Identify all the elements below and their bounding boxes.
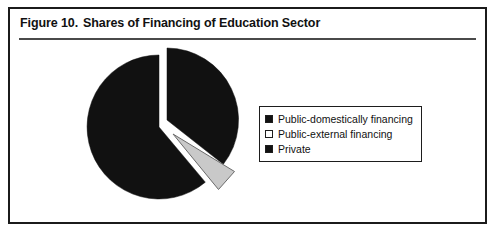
title-divider-rule: [19, 38, 476, 40]
legend-item-public-domestically-financing[interactable]: Public-domestically financing: [265, 112, 415, 126]
open-square-icon: [265, 130, 273, 138]
legend: Public-domestically financing Public-ext…: [259, 106, 422, 162]
page-title: Shares of Financing of Education Sector: [83, 16, 320, 30]
pie-chart-svg: [68, 44, 253, 209]
legend-item-label: Public-external financing: [278, 128, 392, 140]
figure-title: Figure 10.Shares of Financing of Educati…: [20, 16, 460, 30]
figure-container: Figure 10.Shares of Financing of Educati…: [0, 0, 500, 235]
plot-area: Public-domestically financing Public-ext…: [10, 42, 485, 222]
filled-square-icon: [265, 115, 273, 123]
pie-chart: [68, 44, 253, 209]
pie-slice-public-domestically-financing[interactable]: [167, 48, 239, 164]
legend-item-label: Public-domestically financing: [278, 113, 413, 125]
legend-item-label: Private: [278, 143, 311, 155]
figure-number-label: Figure 10.: [20, 16, 78, 30]
filled-square-icon: [265, 145, 273, 153]
legend-item-public-external-financing[interactable]: Public-external financing: [265, 127, 415, 141]
legend-item-private[interactable]: Private: [265, 142, 415, 156]
